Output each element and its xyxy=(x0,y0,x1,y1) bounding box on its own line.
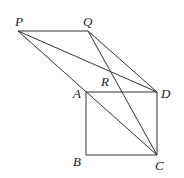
label-B: B xyxy=(73,154,81,169)
label-P: P xyxy=(14,14,23,29)
label-R: R xyxy=(100,74,109,89)
segment-QC xyxy=(88,31,157,155)
segment-PD xyxy=(18,31,157,92)
label-A: A xyxy=(72,86,81,101)
segment-QD xyxy=(88,31,157,92)
label-D: D xyxy=(160,86,171,101)
label-Q: Q xyxy=(83,14,93,29)
point-labels: P Q R A D B C xyxy=(14,14,171,173)
segments xyxy=(18,31,157,155)
label-C: C xyxy=(155,158,164,173)
segment-PC xyxy=(18,31,157,155)
geometry-diagram: P Q R A D B C xyxy=(0,0,184,178)
